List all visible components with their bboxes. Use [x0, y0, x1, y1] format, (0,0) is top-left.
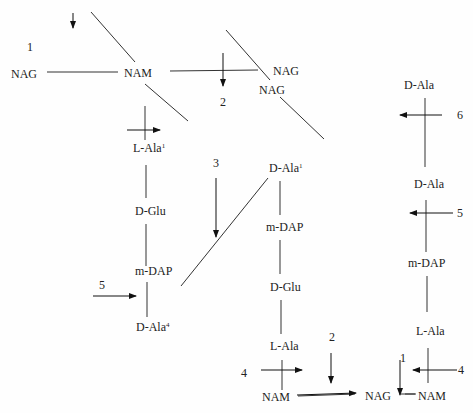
right-d-ala-top-label: D-Ala [404, 79, 434, 91]
site-number-4-middle: 4 [241, 367, 247, 379]
left-nag-label: NAG [11, 68, 37, 80]
site-number-2-bottom: 2 [329, 331, 335, 343]
site-number-4-right: 4 [458, 364, 464, 376]
site-number-5-right: 5 [457, 207, 463, 219]
top-right-nag-label-2: NAG [259, 84, 285, 96]
middle-m-dap-label: m-DAP [266, 221, 303, 233]
middle-nam-label: NAM [262, 391, 290, 403]
middle-l-ala-label: L-Ala [270, 340, 299, 352]
left-l-ala-label: L-Ala1 [133, 142, 165, 154]
right-l-ala-label: L-Ala [416, 325, 445, 337]
site-number-6: 6 [457, 109, 463, 121]
left-nam-label: NAM [124, 67, 152, 79]
top-right-nag-label-1: NAG [273, 65, 299, 77]
right-m-dap-label: m-DAP [408, 257, 445, 269]
right-nam-label: NAM [418, 390, 446, 402]
site-number-1-bottom: 1 [400, 352, 406, 364]
site-number-2-top: 2 [220, 96, 226, 108]
right-d-ala-label: D-Ala [414, 178, 444, 190]
peptidoglycan-diagram: NAG NAM NAG NAG L-Ala1 D-Glu m-DAP D-Ala… [0, 0, 473, 413]
middle-d-ala-label: D-Ala1 [269, 162, 303, 174]
left-d-glu-label: D-Glu [135, 205, 166, 217]
left-m-dap-label: m-DAP [135, 265, 172, 277]
bottom-nag-label: NAG [365, 390, 391, 402]
middle-d-glu-label: D-Glu [270, 281, 301, 293]
left-d-ala-label: D-Ala4 [136, 321, 170, 333]
site-number-3: 3 [213, 157, 219, 169]
site-number-1-top: 1 [27, 41, 33, 53]
site-number-5-left: 5 [99, 279, 105, 291]
